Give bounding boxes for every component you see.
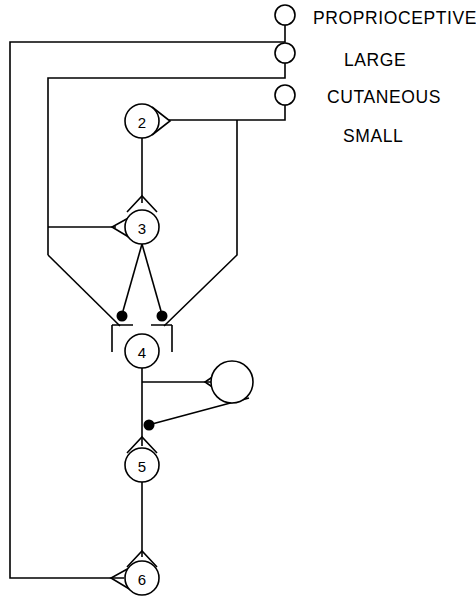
terminal-proprioceptive-bulb [275, 5, 295, 25]
neuron-6-group: 6 [111, 551, 159, 595]
synapse-filled-neuron-5 [144, 420, 155, 431]
synapse-filled-left-neuron-4 [117, 311, 128, 322]
diagram-canvas: 2 3 4 [0, 0, 476, 604]
neuron-4-label: 4 [138, 344, 146, 361]
neuron-2-group: 2 [125, 104, 170, 203]
label-proprioceptive: PROPRIOCEPTIVE [313, 8, 476, 28]
neuron-4-group: 4 [112, 311, 213, 447]
neuron-3-group: 3 [112, 196, 161, 311]
synapse-filled-right-neuron-4 [157, 311, 168, 322]
label-cutaneous: CUTANEOUS [327, 87, 441, 107]
neuron-3-label: 3 [138, 220, 146, 237]
neural-circuit-diagram: 2 3 4 [0, 0, 476, 604]
neuron-2-label: 2 [138, 114, 146, 131]
label-large: LARGE [344, 50, 406, 70]
path-cutaneous-to-neuron-2 [169, 105, 285, 120]
terminal-cutaneous-bulb [275, 85, 295, 105]
path-branch-down-left [48, 255, 120, 326]
path-neuron-3-axon-left [123, 244, 142, 311]
afferent-label-group: PROPRIOCEPTIVE LARGE CUTANEOUS SMALL [313, 8, 476, 146]
path-branch-down-right [164, 120, 237, 326]
label-small: SMALL [343, 126, 403, 146]
path-neuron-3-axon-right [142, 244, 161, 311]
neuron-unlabeled-soma [211, 361, 253, 403]
neuron-5-label: 5 [138, 458, 146, 475]
afferent-terminal-group [275, 5, 295, 105]
terminal-large-bulb [275, 43, 295, 63]
neuron-6-label: 6 [138, 571, 146, 588]
neuron-unlabeled-group [152, 361, 253, 424]
